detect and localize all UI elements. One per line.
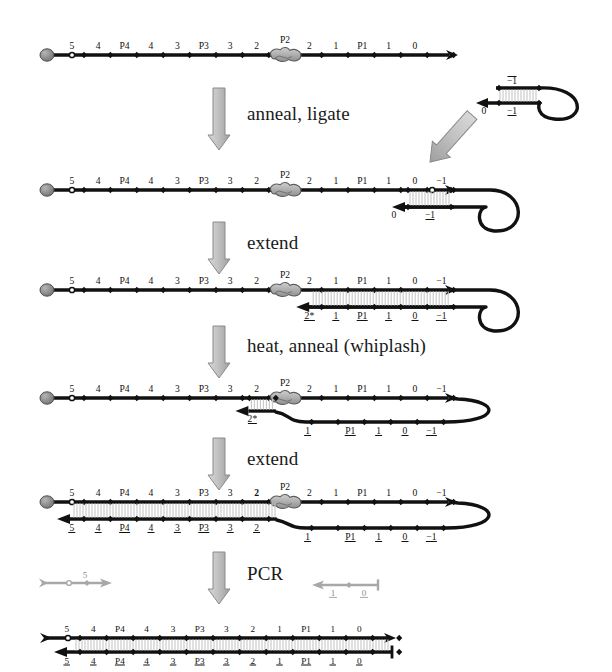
pcr-primer-forward-nick bbox=[67, 581, 72, 586]
new-strand-arrowhead bbox=[57, 514, 70, 524]
tick-label-top: 3 bbox=[228, 40, 233, 51]
tick-label-top: 2 bbox=[307, 487, 312, 498]
tick-label-top: P1 bbox=[357, 40, 367, 51]
tick-label-top: 0 bbox=[413, 275, 418, 286]
tick-label-bottom: 0 bbox=[413, 310, 418, 321]
tick-label-top: 3 bbox=[224, 624, 229, 634]
tick-label-top: 0 bbox=[357, 624, 362, 634]
tick-label-top: 1 bbox=[386, 175, 391, 186]
tick-label-bottom: 1 bbox=[330, 656, 335, 666]
strand-node bbox=[371, 187, 377, 194]
label-p2: P2 bbox=[280, 269, 290, 280]
tick-label-bottom: P3 bbox=[195, 656, 205, 666]
figure-canvas: 54P443P332P221P110−10−154P443P332P221P11… bbox=[0, 0, 612, 672]
strand-node bbox=[239, 52, 245, 59]
tick-label-top: 3 bbox=[171, 624, 176, 634]
strand-node bbox=[134, 187, 140, 194]
tick-label-top: −1 bbox=[436, 383, 446, 394]
tick-label-top: 4 bbox=[96, 487, 101, 498]
strand-node bbox=[536, 100, 542, 107]
strand-node bbox=[345, 395, 351, 402]
strand-node bbox=[213, 52, 219, 59]
step-arrow-extend-2 bbox=[208, 438, 230, 490]
complement-node bbox=[157, 649, 163, 656]
tick-label-top: 4 bbox=[96, 175, 101, 186]
tick-label-top: 2 bbox=[254, 40, 259, 51]
tick-label-top: P1 bbox=[357, 175, 367, 186]
strand-node bbox=[343, 635, 349, 642]
probe-p2-blob bbox=[270, 47, 300, 61]
complement-node bbox=[388, 419, 394, 426]
tick-label-top: 1 bbox=[330, 624, 335, 634]
step-label-anneal-ligate: anneal, ligate bbox=[247, 103, 350, 125]
strand-node bbox=[130, 635, 136, 642]
pcr-primer-reverse-node bbox=[346, 582, 352, 588]
terminus-bead bbox=[40, 392, 54, 404]
duplex-rungs bbox=[313, 292, 448, 306]
strand-node bbox=[160, 395, 166, 402]
strand-node bbox=[160, 187, 166, 194]
complement-node bbox=[361, 419, 367, 426]
tick-label-top: P4 bbox=[120, 487, 130, 498]
tick-label-top: 4 bbox=[149, 275, 154, 286]
step-arrow-pcr bbox=[208, 552, 230, 604]
tick-label-top: P3 bbox=[199, 40, 209, 51]
tick-label-bottom: P3 bbox=[199, 522, 209, 533]
strand-node bbox=[107, 395, 113, 402]
tick-label-top: 2 bbox=[254, 275, 259, 286]
strand-node bbox=[107, 287, 113, 294]
tick-label-top: 5 bbox=[64, 624, 69, 634]
tick-label-top: 2 bbox=[254, 175, 259, 186]
nick-marker bbox=[69, 287, 74, 292]
strand-node bbox=[424, 499, 430, 506]
tick-label-bottom: 2* bbox=[248, 413, 258, 424]
strand-node bbox=[187, 187, 193, 194]
tick-label-bottom: 4 bbox=[91, 656, 96, 666]
tick-label-top: 5 bbox=[69, 383, 74, 394]
complement-node bbox=[335, 525, 341, 532]
strand-node bbox=[398, 187, 404, 194]
tick-label-top: 2 bbox=[251, 624, 256, 634]
strand-node bbox=[424, 52, 430, 59]
tick-label-bottom: P1 bbox=[301, 656, 311, 666]
tick-label-top: 1 bbox=[333, 40, 338, 51]
tick-label-top: P3 bbox=[199, 175, 209, 186]
whiplash-duplex-rungs bbox=[251, 400, 272, 410]
strand-node bbox=[239, 395, 245, 402]
tick-label-bottom: 1 bbox=[305, 531, 310, 542]
pcr-primer-forward-node bbox=[84, 580, 90, 586]
tick-label-bottom: 0 bbox=[392, 209, 397, 220]
strand-node bbox=[371, 499, 377, 506]
tick-label-bottom: 0 bbox=[357, 656, 362, 666]
tick-label-top: −1 bbox=[436, 275, 446, 286]
tick-label-bottom: −1 bbox=[436, 310, 446, 321]
final-top-tail bbox=[40, 633, 52, 643]
tick-label-bottom: P4 bbox=[120, 522, 130, 533]
tick-label-top: P1 bbox=[357, 383, 367, 394]
hairpin-loop bbox=[539, 88, 578, 119]
complement-node bbox=[451, 304, 457, 311]
strand-node bbox=[239, 187, 245, 194]
tick-label-top: 3 bbox=[175, 383, 180, 394]
tick-label-bottom: P1 bbox=[345, 425, 355, 436]
tick-label-top: 3 bbox=[228, 175, 233, 186]
tick-label-top: P4 bbox=[115, 624, 125, 634]
tick-label-bottom: 1 bbox=[376, 531, 381, 542]
tick-label-bottom: 5 bbox=[69, 522, 74, 533]
tick-label-top: 1 bbox=[333, 275, 338, 286]
strand-node bbox=[239, 287, 245, 294]
step-arrow-heat-anneal-whiplash bbox=[208, 326, 230, 378]
tick-label-top: 1 bbox=[333, 175, 338, 186]
strand-node bbox=[160, 287, 166, 294]
strand-node bbox=[107, 187, 113, 194]
tick-label-top: 2 bbox=[307, 275, 312, 286]
tick-label-top: 5 bbox=[69, 40, 74, 51]
complement-node bbox=[361, 525, 367, 532]
tick-label-top: 2 bbox=[307, 383, 312, 394]
tick-label-top: P3 bbox=[199, 275, 209, 286]
complement-node bbox=[441, 419, 447, 426]
tick-label-top: 1 bbox=[386, 40, 391, 51]
strand-node bbox=[496, 100, 502, 107]
complement-node bbox=[134, 516, 140, 523]
tick-label-top: 1 bbox=[277, 624, 282, 634]
